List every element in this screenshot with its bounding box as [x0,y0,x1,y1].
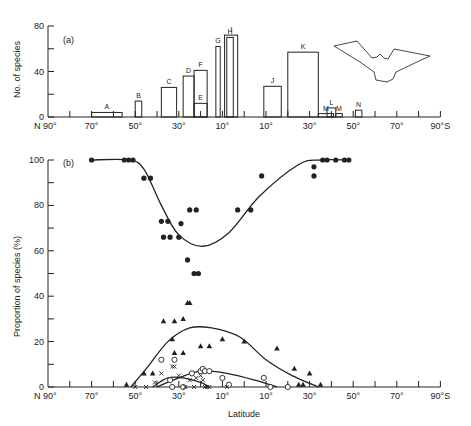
bar-label-D: D [186,67,191,74]
filled-triangle-point [307,370,313,375]
y-tick-label: 80 [34,200,44,210]
open-circle-point [261,375,266,380]
bar-G [216,46,220,117]
y-tick-label: 20 [34,337,44,347]
y-tick-label: 80 [34,21,44,31]
fit-curve-2 [157,371,277,387]
x-tick-label: 70° [390,121,404,131]
filled-circle-point [187,207,192,212]
filled-triangle-point [296,382,302,387]
bar-label-C: C [166,78,171,85]
filled-triangle-point [292,366,298,371]
filled-circle-point [185,257,190,262]
x-tick-label: 50° [346,121,360,131]
x-tick-label: 30° [303,121,317,131]
filled-triangle-point [318,382,324,387]
fitted-curves [92,159,349,387]
filled-triangle-point [180,350,186,355]
filled-circle-point [167,235,172,240]
x-tick-label: 10° [216,121,230,131]
x-tick-label: 10° [216,391,230,401]
filled-triangle-point [207,343,213,348]
cross-point [194,376,198,380]
bar-label-B: B [136,92,141,99]
panel-a-label: (a) [63,35,74,45]
bar-label-E: E [198,94,203,101]
x-tick-label: 70° [85,121,99,131]
cross-point [153,380,157,384]
x-axis-title: Latitude [228,409,260,419]
bar-A [92,112,123,117]
filled-circle-point [141,176,146,181]
open-circle-point [170,384,175,389]
filled-circle-point [333,157,338,162]
filled-circle-point [159,219,164,224]
filled-circle-point [311,164,316,169]
bar-label-M: M [336,105,342,112]
bar-label-K: K [301,43,306,50]
x-tick-label: 90°S [431,121,451,131]
filled-circle-point [196,271,201,276]
fit-curve-0 [92,159,349,246]
bar-label-G: G [215,37,220,44]
x-tick-label: 90°S [431,391,451,401]
bar-label-A: A [105,103,110,110]
figure: 04080N 90°70°50°30°10°10°30°50°70°90°S (… [0,0,471,426]
filled-triangle-point [180,316,186,321]
data-points [89,157,351,389]
bar-K [288,52,319,117]
open-circle-point [159,357,164,362]
bar-label-J: J [271,77,275,84]
filled-circle-point [161,235,166,240]
x-tick-label: 30° [303,391,317,401]
panel-b-scatter-chart: 020406080100N 90°70°50°30°10°10°30°50°70… [12,155,450,419]
x-tick-label: 10° [259,391,273,401]
panel-a-bars: ABCDEFGHIJKMLMN [92,26,362,117]
filled-triangle-point [172,318,178,323]
x-tick-label: N 90° [34,121,57,131]
bar-label-L: L [329,99,333,106]
bar-D [183,76,194,117]
filled-circle-point [248,207,253,212]
filled-circle-point [235,207,240,212]
x-tick-label: N 90° [34,391,57,401]
filled-circle-point [194,207,199,212]
x-tick-label: 50° [128,391,142,401]
cross-point [199,374,203,378]
bar-label-I: I [230,26,232,33]
y-tick-label: 40 [34,291,44,301]
filled-circle-point [148,176,153,181]
filled-triangle-point [300,382,306,387]
filled-triangle-point [220,336,226,341]
cross-point [172,365,176,369]
bar-M [336,114,343,117]
filled-triangle-point [150,370,156,375]
open-circle-point [189,371,194,376]
filled-circle-point [178,221,183,226]
x-tick-label: 70° [390,391,404,401]
bar-C [161,87,176,117]
bar-N [355,110,362,117]
cross-point [201,378,205,382]
filled-triangle-point [172,350,178,355]
open-circle-point [268,384,273,389]
filled-circle-point [176,235,181,240]
filled-circle-point [259,173,264,178]
filled-triangle-point [198,343,204,348]
panel-a-axes: 04080N 90°70°50°30°10°10°30°50°70°90°S [34,21,450,131]
filled-circle-point [130,157,135,162]
x-tick-label: 50° [128,121,142,131]
open-circle-point [172,357,177,362]
panel-a-bar-chart: 04080N 90°70°50°30°10°10°30°50°70°90°S (… [12,21,450,131]
filled-circle-point [311,173,316,178]
filled-circle-point [165,219,170,224]
bar-H [227,37,234,117]
panel-b-axes: 020406080100N 90°70°50°30°10°10°30°50°70… [29,155,450,401]
panel-b-label: (b) [63,158,74,168]
open-circle-point [167,378,172,383]
bar-label-F: F [198,61,202,68]
x-tick-label: 10° [259,121,273,131]
open-circle-point [207,369,212,374]
panel-b-y-axis-title: Proportion of species (%) [12,236,22,337]
x-tick-label: 50° [346,391,360,401]
